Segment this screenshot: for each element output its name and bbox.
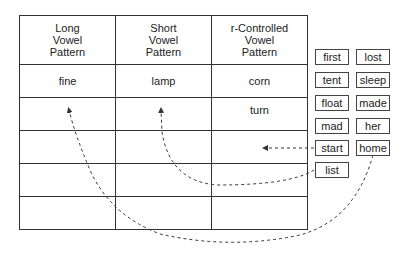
word-card[interactable]: float [315,95,349,111]
word-card[interactable]: tent [315,72,349,88]
word-card[interactable]: home [356,140,390,156]
word-card[interactable]: made [356,95,390,111]
word-card[interactable]: mad [315,118,349,134]
arrow-list [161,110,314,185]
word-card[interactable]: list [315,162,349,178]
word-card[interactable]: her [356,118,390,134]
word-card[interactable]: first [315,49,349,65]
word-card[interactable]: start [315,140,349,156]
word-card[interactable]: lost [356,49,390,65]
word-card[interactable]: sleep [356,72,390,88]
